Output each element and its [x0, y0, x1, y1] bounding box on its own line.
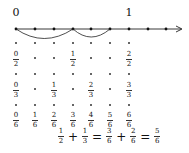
plus-sign: + — [116, 130, 126, 144]
equals-sign: = — [140, 130, 150, 144]
eq-term-5: 56 — [154, 128, 160, 145]
fraction-3-3: 33 — [126, 82, 132, 99]
arc-one-half — [16, 29, 73, 39]
fraction-3-6: 36 — [70, 112, 76, 129]
fraction-1-2: 12 — [70, 51, 76, 68]
fraction-0-6: 06 — [13, 112, 19, 129]
equation: 12 + 13 = 36 + 26 = 56 — [58, 128, 160, 145]
fraction-2-6: 26 — [51, 112, 57, 129]
fraction-0-2: 02 — [13, 51, 19, 68]
fraction-0-3: 03 — [13, 82, 19, 99]
label-one: 1 — [126, 7, 133, 18]
fraction-1-3: 13 — [51, 82, 57, 99]
eq-term-1: 12 — [58, 128, 64, 145]
plus-sign: + — [68, 130, 78, 144]
equals-sign: = — [92, 130, 102, 144]
fraction-1-6: 16 — [32, 112, 38, 129]
fraction-2-2: 22 — [126, 51, 132, 68]
fraction-4-6: 46 — [88, 112, 94, 129]
fraction-2-3: 23 — [88, 82, 94, 99]
label-zero: 0 — [13, 7, 20, 18]
eq-term-4: 26 — [130, 128, 136, 145]
eq-term-2: 13 — [82, 128, 88, 145]
eq-term-3: 36 — [106, 128, 112, 145]
